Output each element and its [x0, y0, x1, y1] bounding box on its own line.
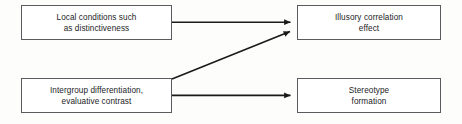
node-local-conditions: Local conditions such as distinctiveness: [21, 5, 172, 40]
node-stereotype-formation-label: Stereotype formation: [346, 85, 392, 107]
node-intergroup-differentiation: Intergroup differentiation, evaluative c…: [21, 78, 172, 113]
flow-diagram: Local conditions such as distinctiveness…: [0, 0, 462, 124]
node-illusory-correlation-label: Illusory correlation effect: [332, 12, 406, 34]
node-local-conditions-label: Local conditions such as distinctiveness: [54, 12, 140, 34]
node-intergroup-differentiation-label: Intergroup differentiation, evaluative c…: [47, 85, 146, 107]
node-stereotype-formation: Stereotype formation: [297, 78, 441, 113]
node-illusory-correlation: Illusory correlation effect: [297, 5, 441, 40]
arrow-intergroup-to-illusory: [172, 32, 290, 79]
